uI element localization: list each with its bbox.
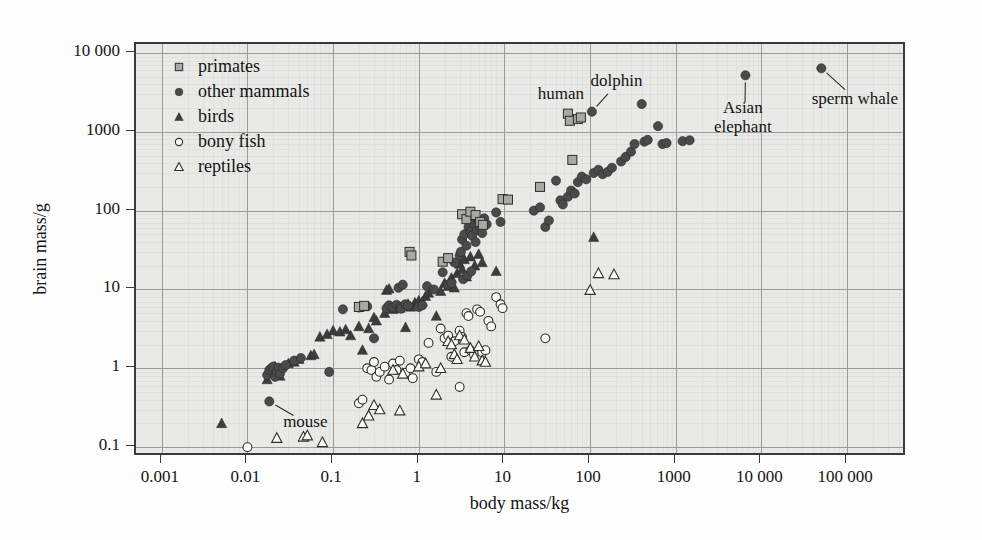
data-point	[438, 268, 447, 277]
y-tick-mark	[126, 51, 134, 52]
data-point	[568, 155, 577, 164]
data-point	[471, 237, 480, 246]
legend-item-birds[interactable]: birds	[168, 104, 309, 129]
legend-item-other-mammals[interactable]: other mammals	[168, 79, 309, 104]
data-point	[487, 322, 496, 331]
data-point	[418, 301, 427, 310]
x-tick-mark	[245, 455, 246, 463]
y-tick-label: 10 000	[73, 41, 120, 61]
y-tick-mark	[126, 287, 134, 288]
x-tick-mark	[845, 455, 846, 463]
legend-marker	[175, 88, 183, 96]
annotation-mouse: mouse	[283, 412, 327, 431]
data-point	[462, 241, 471, 250]
data-point	[551, 176, 560, 185]
data-point	[576, 113, 585, 122]
data-point	[265, 397, 274, 406]
x-tick-label: 1	[413, 467, 422, 487]
data-point	[403, 301, 412, 310]
data-point	[662, 138, 671, 147]
leader-line	[597, 94, 608, 107]
data-point	[593, 268, 603, 278]
x-tick-label: 100	[575, 467, 601, 487]
data-point	[272, 433, 282, 443]
legend-marker	[175, 112, 183, 120]
x-tick-label: 100 000	[817, 467, 872, 487]
data-point	[243, 443, 252, 452]
data-point	[217, 418, 227, 428]
y-tick-mark	[126, 209, 134, 210]
legend-marker	[175, 162, 183, 170]
y-tick-mark	[126, 366, 134, 367]
y-tick-label: 100	[95, 199, 121, 219]
data-point	[817, 64, 826, 73]
other-mammals-marker-icon	[168, 83, 190, 101]
data-point	[281, 360, 290, 369]
data-point	[431, 311, 441, 321]
y-tick-mark	[126, 130, 134, 131]
data-point	[398, 280, 407, 289]
y-tick-label: 10	[103, 277, 120, 297]
data-point	[395, 356, 404, 365]
leader-line	[827, 73, 845, 90]
legend-label: bony fish	[198, 131, 266, 152]
data-point	[338, 305, 347, 314]
x-tick-mark	[502, 455, 503, 463]
legend-item-bony-fish[interactable]: bony fish	[168, 129, 309, 154]
bony-fish-marker-icon	[168, 133, 190, 151]
data-point	[444, 254, 453, 263]
x-tick-label: 0.01	[231, 467, 261, 487]
x-tick-label: 0.001	[141, 467, 179, 487]
data-point	[685, 136, 694, 145]
data-point	[408, 374, 417, 383]
x-tick-mark	[331, 455, 332, 463]
x-tick-label: 10 000	[736, 467, 783, 487]
data-point	[653, 122, 662, 131]
y-axis-title: brain mass/g	[30, 203, 51, 295]
y-tick-label: 1	[112, 356, 121, 376]
data-point	[380, 362, 389, 371]
legend-item-reptiles[interactable]: reptiles	[168, 154, 309, 179]
data-point	[587, 107, 596, 116]
legend-marker	[175, 63, 182, 70]
y-tick-label: 1000	[86, 120, 120, 140]
legend: primatesother mammalsbirdsbony fishrepti…	[168, 54, 309, 179]
legend-item-primates[interactable]: primates	[168, 54, 309, 79]
data-point	[504, 195, 513, 204]
scatter-plot-figure: primatesother mammalsbirdsbony fishrepti…	[0, 0, 982, 540]
data-point	[536, 182, 545, 191]
data-point	[369, 334, 378, 343]
primates-marker-icon	[168, 58, 190, 76]
data-point	[465, 251, 475, 261]
x-tick-label: 0.1	[320, 467, 341, 487]
data-point	[385, 375, 394, 384]
data-point	[357, 345, 367, 355]
data-point	[607, 163, 616, 172]
legend-label: birds	[198, 106, 234, 127]
series-birds	[217, 232, 599, 428]
y-tick-mark	[126, 445, 134, 446]
data-point	[467, 267, 476, 276]
data-point	[630, 139, 639, 148]
data-point	[478, 220, 487, 229]
data-point	[491, 266, 501, 276]
data-point	[582, 175, 591, 184]
data-point	[325, 367, 334, 376]
annotation-asian-elephant: Asian elephant	[714, 98, 772, 136]
data-point	[496, 217, 505, 226]
data-point	[436, 324, 445, 333]
data-point	[358, 395, 367, 404]
data-point	[544, 216, 553, 225]
data-point	[570, 189, 579, 198]
birds-marker-icon	[168, 108, 190, 126]
data-point	[429, 285, 438, 294]
data-point	[492, 208, 501, 217]
data-point	[431, 390, 441, 400]
x-tick-mark	[759, 455, 760, 463]
data-point	[400, 322, 410, 332]
data-point	[370, 358, 379, 367]
annotation-human: human	[538, 84, 584, 103]
y-tick-label: 0.1	[99, 435, 120, 455]
data-point	[424, 339, 433, 348]
data-point	[407, 251, 416, 260]
